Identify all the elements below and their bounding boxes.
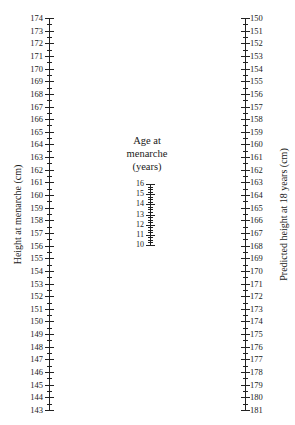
tick-label: 166 [250,215,263,225]
major-tick [146,194,155,195]
minor-tick [47,328,52,329]
major-tick [241,208,250,209]
minor-tick [148,192,153,193]
minor-tick [47,151,52,152]
minor-tick [148,202,153,203]
tick-label: 155 [250,76,263,86]
major-tick [241,258,250,259]
minor-tick [47,303,52,304]
tick-label: 156 [250,89,263,99]
minor-tick [243,277,248,278]
major-tick [241,119,250,120]
major-tick [45,170,54,171]
minor-tick [243,315,248,316]
major-tick [45,195,54,196]
tick-label: 16 [132,179,144,189]
minor-tick [148,230,153,231]
minor-tick [148,187,153,188]
major-tick [241,334,250,335]
minor-tick [243,50,248,51]
tick-label: 177 [250,354,263,364]
tick-label: 145 [23,380,43,390]
major-tick [45,321,54,322]
minor-tick [47,138,52,139]
minor-tick [243,62,248,63]
tick-label: 178 [250,367,263,377]
tick-label: 159 [23,203,43,213]
minor-tick [243,303,248,304]
major-tick [45,69,54,70]
major-tick [45,31,54,32]
minor-tick [47,239,52,240]
tick-label: 153 [23,279,43,289]
minor-tick [243,265,248,266]
tick-label: 157 [23,228,43,238]
minor-tick [47,315,52,316]
minor-tick [243,239,248,240]
tick-label: 156 [23,241,43,251]
major-tick [241,43,250,44]
major-tick [45,397,54,398]
major-tick [45,410,54,411]
minor-tick [47,37,52,38]
major-tick [45,94,54,95]
tick-label: 171 [23,51,43,61]
major-tick [45,208,54,209]
minor-tick [148,242,153,243]
major-tick [146,184,155,185]
tick-label: 169 [23,76,43,86]
tick-label: 146 [23,367,43,377]
major-tick [241,359,250,360]
major-tick [241,233,250,234]
tick-label: 13 [132,210,144,220]
tick-label: 181 [250,405,263,415]
tick-label: 180 [250,392,263,402]
major-tick [241,157,250,158]
minor-tick [148,209,153,210]
tick-label: 163 [250,177,263,187]
tick-label: 11 [132,230,144,240]
minor-tick [47,378,52,379]
left-axis-title: Height at menarche (cm) [12,152,23,278]
tick-label: 174 [23,13,43,23]
minor-tick [47,163,52,164]
minor-tick [47,404,52,405]
tick-label: 150 [23,316,43,326]
minor-tick [47,214,52,215]
tick-label: 155 [23,253,43,263]
tick-label: 147 [23,354,43,364]
minor-tick [148,217,153,218]
major-tick [146,225,155,226]
minor-tick [47,201,52,202]
minor-tick [243,378,248,379]
tick-label: 158 [250,114,263,124]
minor-tick [148,222,153,223]
minor-tick [47,75,52,76]
major-tick [241,397,250,398]
tick-label: 164 [23,139,43,149]
major-tick [241,132,250,133]
major-tick [241,182,250,183]
minor-tick [243,328,248,329]
major-tick [45,107,54,108]
major-tick [241,81,250,82]
major-tick [45,385,54,386]
minor-tick [47,189,52,190]
tick-label: 12 [132,220,144,230]
major-tick [241,195,250,196]
tick-label: 167 [23,102,43,112]
tick-label: 160 [23,190,43,200]
major-tick [241,144,250,145]
tick-label: 176 [250,342,263,352]
major-tick [45,258,54,259]
tick-label: 174 [250,316,263,326]
minor-tick [243,24,248,25]
major-tick [45,220,54,221]
minor-tick [47,100,52,101]
minor-tick [243,290,248,291]
tick-label: 171 [250,279,263,289]
minor-tick [47,277,52,278]
minor-tick [47,290,52,291]
major-tick [241,220,250,221]
major-tick [241,170,250,171]
